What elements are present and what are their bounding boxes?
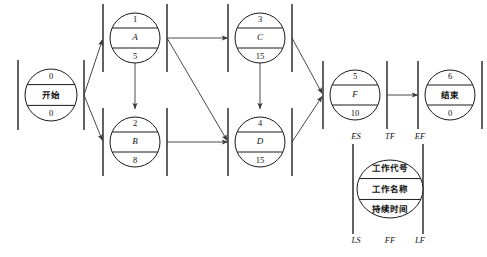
node-end[interactable]: 6结束0 xyxy=(418,61,482,129)
legend-label-lf: LF xyxy=(414,235,426,245)
node-name-end: 结束 xyxy=(441,90,459,100)
node-code-F: 5 xyxy=(353,71,357,81)
node-C[interactable]: 3C15 xyxy=(228,4,292,72)
node-duration-F: 10 xyxy=(351,108,360,118)
edge-C-to-F xyxy=(292,38,322,94)
node-name-D: D xyxy=(256,136,264,146)
nodes-layer: 0开始01A52B83C154D155F106结束0 xyxy=(18,4,482,176)
node-name-C: C xyxy=(257,32,264,42)
node-B[interactable]: 2B8 xyxy=(103,108,167,176)
legend-label-es: ES xyxy=(350,131,361,141)
edge-start-to-A xyxy=(84,39,103,95)
node-code-end: 6 xyxy=(448,71,452,81)
node-code-C: 3 xyxy=(258,14,262,24)
node-duration-B: 8 xyxy=(133,155,137,165)
node-duration-D: 15 xyxy=(256,155,265,165)
node-code-A: 1 xyxy=(133,14,137,24)
node-duration-start: 0 xyxy=(49,108,53,118)
node-name-B: B xyxy=(132,136,138,146)
node-name-start: 开始 xyxy=(42,90,60,100)
node-F[interactable]: 5F10 xyxy=(323,61,387,129)
legend-label-tf: TF xyxy=(385,131,396,141)
node-A[interactable]: 1A5 xyxy=(103,4,167,72)
node-start[interactable]: 0开始0 xyxy=(18,60,84,130)
edge-D-to-F xyxy=(292,96,322,142)
diagram-canvas: 0开始01A52B83C154D155F106结束0 工作代号工作名称持续时间E… xyxy=(0,0,487,257)
node-duration-C: 15 xyxy=(256,51,265,61)
edge-start-to-B xyxy=(84,95,102,141)
node-D[interactable]: 4D15 xyxy=(228,108,292,176)
legend-row-name: 工作名称 xyxy=(372,184,408,194)
legend-label-ef: EF xyxy=(414,131,426,141)
legend-row-code: 工作代号 xyxy=(372,163,408,173)
legend-legend-layer: 工作代号工作名称持续时间ESTFEFLSFFLF xyxy=(350,131,426,245)
legend-row-duration: 持续时间 xyxy=(372,204,408,214)
node-name-A: A xyxy=(131,32,138,42)
node-name-F: F xyxy=(351,89,358,99)
edge-A-to-D xyxy=(167,38,227,141)
node-code-start: 0 xyxy=(49,71,53,81)
legend-label-ff: FF xyxy=(384,235,396,245)
legend-label-ls: LS xyxy=(351,235,362,245)
node-duration-A: 5 xyxy=(133,51,137,61)
network-diagram-svg: 0开始01A52B83C154D155F106结束0 工作代号工作名称持续时间E… xyxy=(0,0,487,257)
node-code-B: 2 xyxy=(133,118,137,128)
node-duration-end: 0 xyxy=(448,108,452,118)
